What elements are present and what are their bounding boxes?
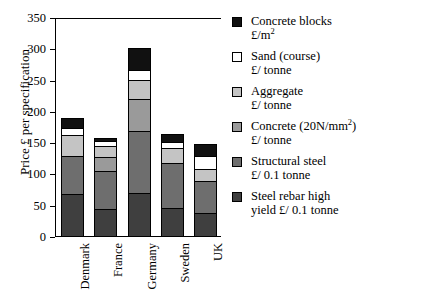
bar-segment [128,70,151,80]
bar-segment [194,169,217,180]
legend-item: Structural steel£/ 0.1 tonne [232,154,420,182]
bar-segment [194,181,217,214]
bar-segment [61,118,84,128]
bar-segment [128,193,151,237]
legend-label-unit: £/m2 [251,28,420,42]
legend-label-primary: Sand (course) [251,49,420,63]
plot-area [55,18,221,237]
bar-segment [128,80,151,99]
bar-segment [61,194,84,237]
legend-label-unit: £/ tonne [251,63,420,77]
bar-segment [161,208,184,237]
bar-france [94,138,117,237]
bar-segment [94,146,117,157]
legend-label-primary: Steel rebar high [251,189,420,203]
bar-segment [161,134,184,142]
legend-item: Concrete (20N/mm2)£/ tonne [232,119,420,147]
bar-segment [194,156,217,170]
legend-label-unit: yield £/ 0.1 tonne [251,203,420,217]
legend-swatch [232,52,242,62]
legend-swatch [232,87,242,97]
y-axis-title: Price £ per specification [17,12,33,212]
legend-item: Aggregate£/ tonne [232,84,420,112]
legend-item: Steel rebar highyield £/ 0.1 tonne [232,189,420,217]
legend-label-unit: £/ tonne [251,133,420,147]
x-axis-label-sweden: Sweden [178,243,193,283]
legend-label-unit: £/ tonne [251,98,420,112]
legend-item: Sand (course)£/ tonne [232,49,420,77]
bar-segment [61,128,84,136]
bar-segment [194,213,217,237]
legend-label-primary: Concrete blocks [251,14,420,28]
bar-segment [128,131,151,194]
y-axis-tick-label: 0 [40,231,46,244]
x-axis-label-germany: Germany [145,243,160,290]
legend-label-unit: £/ 0.1 tonne [251,168,420,182]
x-axis-label-uk: UK [211,243,226,261]
x-axis-label-france: France [111,243,126,277]
legend-swatch [232,17,242,27]
chart-legend: Concrete blocks£/m2Sand (course)£/ tonne… [232,14,420,224]
stacked-bar-chart: 050100150200250300350 Price £ per specif… [0,0,422,306]
bar-segment [161,163,184,207]
bar-denmark [61,118,84,237]
bar-segment [94,171,117,210]
legend-swatch [232,122,242,132]
legend-label-primary: Aggregate [251,84,420,98]
bar-germany [128,48,151,237]
y-axis-tick-mark [50,237,55,238]
bar-uk [194,144,217,237]
y-axis-tick-label: 50 [34,199,47,212]
bar-segment [61,156,84,194]
legend-label-primary: Concrete (20N/mm2) [251,119,420,133]
legend-swatch [232,192,242,202]
bar-segment [128,48,151,70]
x-axis-label-denmark: Denmark [78,243,93,290]
bar-segment [94,209,117,237]
bar-segment [161,148,184,163]
legend-label-primary: Structural steel [251,154,420,168]
legend-swatch [232,157,242,167]
bar-segment [61,135,84,156]
bar-segment [128,99,151,131]
legend-item: Concrete blocks£/m2 [232,14,420,42]
bar-sweden [161,134,184,237]
bar-segment [94,157,117,171]
bar-segment [194,144,217,155]
